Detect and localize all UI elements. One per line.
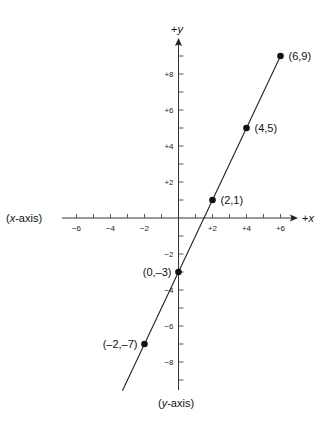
y-tick-label: −6 (164, 322, 174, 331)
data-point-label: (–2,–7) (103, 338, 138, 350)
y-tick-label: −8 (164, 358, 174, 367)
x-axis-name: (x-axis) (6, 212, 42, 224)
y-positive-label: +y (171, 23, 184, 35)
x-tick-label: +6 (276, 224, 286, 233)
y-tick-label: −2 (164, 250, 174, 259)
y-tick-label: +4 (164, 142, 174, 151)
axes (62, 38, 298, 390)
data-point-marker (277, 53, 284, 60)
data-point-label: (4,5) (255, 122, 278, 134)
y-tick-label: +6 (164, 106, 174, 115)
data-point-label: (2,1) (221, 194, 244, 206)
x-tick-label: −4 (106, 224, 116, 233)
coordinate-chart: −6−4−2+2+4+6+8+6+4+2−2−4−6−8 (–2,–7)(0,–… (0, 0, 333, 425)
x-tick-label: −2 (140, 224, 150, 233)
data-point-marker (175, 269, 182, 276)
y-tick-label: +8 (164, 70, 174, 79)
y-tick-label: +2 (164, 178, 174, 187)
data-point-label: (6,9) (289, 50, 312, 62)
data-point-label: (0,–3) (143, 266, 172, 278)
data-point-marker (243, 125, 250, 132)
x-tick-label: −6 (72, 224, 82, 233)
x-tick-label: +2 (208, 224, 218, 233)
x-tick-label: +4 (242, 224, 252, 233)
data-point-marker (141, 341, 148, 348)
data-points: (–2,–7)(0,–3)(2,1)(4,5)(6,9) (103, 50, 311, 350)
data-point-marker (209, 197, 216, 204)
x-positive-label: +x (302, 212, 314, 224)
y-axis-name: (y-axis) (158, 397, 194, 409)
